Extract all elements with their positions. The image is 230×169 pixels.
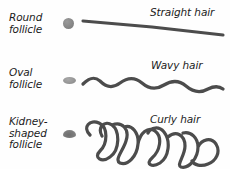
follicle-label-kidney: Kidney- shaped follicle (9, 116, 48, 151)
diagram-row-straight: Round follicle Straight hair (0, 0, 230, 56)
straight-hair-strand (80, 0, 230, 56)
round-follicle-icon (63, 18, 74, 29)
follicle-label-oval: Oval follicle (9, 67, 42, 90)
curly-hair-strand (80, 111, 230, 169)
hair-follicle-diagram: Round follicle Straight hair Oval follic… (0, 0, 230, 169)
oval-follicle-icon (63, 77, 76, 84)
diagram-row-wavy: Oval follicle Wavy hair (0, 56, 230, 111)
wavy-hair-strand (80, 56, 230, 111)
follicle-label-round: Round follicle (9, 12, 42, 35)
kidney-follicle-icon (63, 130, 76, 138)
diagram-row-curly: Kidney- shaped follicle Curly hair (0, 111, 230, 169)
